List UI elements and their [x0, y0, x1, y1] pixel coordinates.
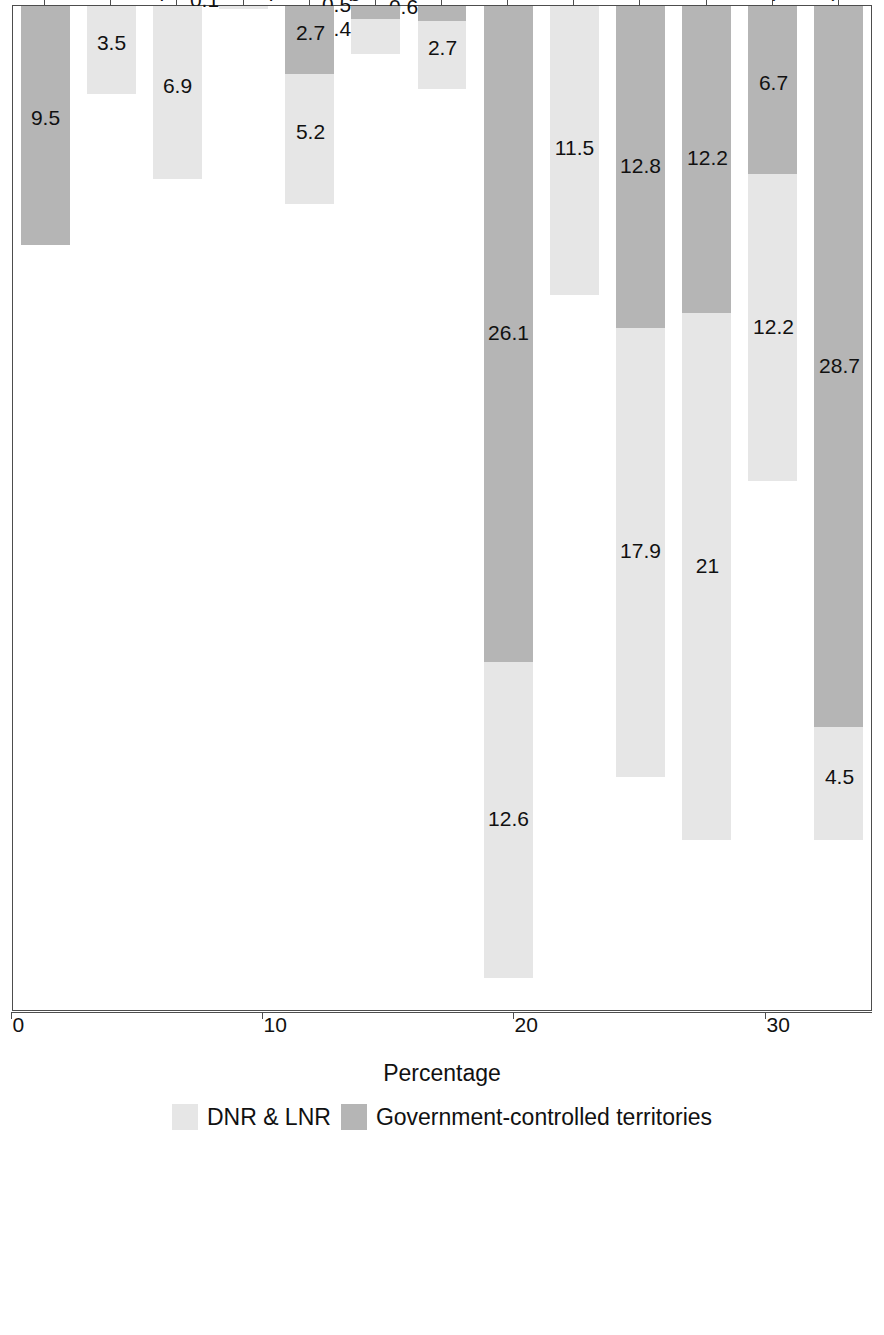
bar-value-label: 12.2 [753, 316, 794, 337]
legend-label-dnr-lnr: DNR & LNR [207, 1104, 331, 1131]
legend-item-government-controlled: Government-controlled territories [341, 1104, 712, 1131]
bar-value-label: 17.9 [621, 540, 662, 561]
legend-swatch-icon-dnr-lnr [172, 1104, 198, 1130]
category-axis-tick [507, 0, 508, 5]
bar-group: 6.9 [153, 6, 202, 1011]
bar-segment [351, 19, 400, 54]
value-axis-tick-label: 30 [766, 1014, 789, 1035]
bar-group: 2.75.2 [285, 6, 334, 1011]
category-axis-tick [110, 0, 111, 5]
legend-label-government-controlled: Government-controlled territories [376, 1104, 712, 1131]
bar-value-label: 2.7 [296, 22, 325, 43]
bar-group: 11.5 [550, 6, 599, 1011]
value-axis-tick-label: 10 [264, 1014, 287, 1035]
value-axis-tick-label: 0 [13, 1014, 25, 1035]
bar-value-label: 26.1 [488, 322, 529, 343]
bar-group: 9.5 [21, 6, 70, 1011]
bar-value-label: 11.5 [555, 138, 594, 159]
bar-group: 6.712.2 [748, 6, 797, 1011]
chart-figure: 010203040 28.74.56.712.212.22112.817.911… [0, 0, 884, 1335]
bar-value-label: 28.7 [819, 354, 860, 375]
value-axis-line [12, 1012, 872, 1013]
bar-group: 12.221 [682, 6, 731, 1011]
category-axis-tick [639, 0, 640, 5]
bar-value-label: 3.5 [97, 32, 126, 53]
category-axis-tick [375, 0, 376, 5]
bar-group: 12.817.9 [616, 6, 665, 1011]
legend-item-dnr-lnr: DNR & LNR [172, 1104, 331, 1131]
rotated-chart-canvas: 010203040 28.74.56.712.212.22112.817.911… [0, 0, 884, 1335]
bar-group: 0.62.7 [418, 6, 467, 1011]
category-axis-tick [838, 0, 839, 5]
value-axis-title: Percentage [12, 1062, 872, 1085]
bar-value-label: 12.6 [488, 808, 529, 829]
bar-group: 0.51.4 [351, 6, 400, 1011]
legend-swatch-icon-government-controlled [341, 1104, 367, 1130]
category-axis-tick [44, 0, 45, 5]
bar-group: 26.112.6 [484, 6, 533, 1011]
bar-segment [418, 6, 467, 21]
category-axis-tick [772, 0, 773, 5]
bar-group: 0.1 [219, 6, 268, 1011]
bar-group: 28.74.5 [814, 6, 863, 1011]
category-axis-tick [176, 0, 177, 5]
bar-value-label: 21 [695, 556, 718, 577]
bar-value-label: 9.5 [31, 107, 60, 128]
category-axis-tick [706, 0, 707, 5]
category-axis-tick [441, 0, 442, 5]
bar-value-label: 5.2 [296, 121, 325, 142]
bar-value-label: 6.9 [163, 75, 192, 96]
category-axis-tick [573, 0, 574, 5]
bar-value-label: 2.7 [428, 37, 457, 58]
bar-segment [351, 6, 400, 19]
bar-segment [219, 6, 268, 9]
category-axis-tick [243, 0, 244, 5]
bar-value-label: 6.7 [759, 72, 788, 93]
chart-legend: DNR & LNR Government-controlled territor… [12, 1102, 872, 1132]
value-axis-tick-label: 20 [515, 1014, 538, 1035]
bar-value-label: 12.8 [621, 155, 662, 176]
bar-value-label: 4.5 [825, 766, 854, 787]
bar-value-label: 12.2 [687, 147, 728, 168]
category-axis-tick [309, 0, 310, 5]
bar-group: 3.5 [87, 6, 136, 1011]
